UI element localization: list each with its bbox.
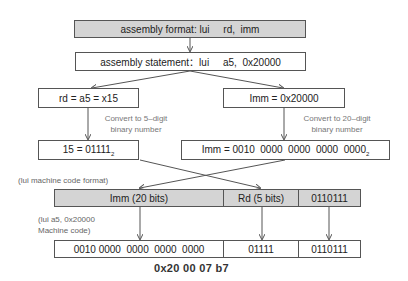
assembly-format-text: assembly format: lui rd, imm [121, 24, 260, 35]
assembly-format-box: assembly format: lui rd, imm [74, 20, 306, 38]
assembly-statement-text: assembly statement：lui a5, 0x20000 [100, 54, 281, 69]
hex-result: 0x20 00 07 b7 [154, 262, 229, 274]
assembly-statement-box: assembly statement：lui a5, 0x20000 [75, 52, 306, 71]
machine-code-label: (lui a5, 0x20000 Machine code) [38, 214, 95, 236]
rd-box: rd = a5 = x15 [38, 88, 139, 108]
format-field-opcode: 0110111 [299, 190, 360, 206]
imm-binary-text: Imm = 0010 0000 0000 0000 00002 [202, 144, 370, 157]
machine-code-format-bar: Imm (20 bits) Rd (5 bits) 0110111 [54, 189, 361, 207]
rd-binary-box: 15 = 011112 [38, 140, 139, 160]
machine-field-rd: 01111 [224, 241, 299, 257]
format-field-imm: Imm (20 bits) [55, 190, 224, 206]
machine-code-bar: 0010 0000 0000 0000 0000 01111 0110111 [54, 240, 361, 258]
format-label: (lui machine code format) [18, 175, 108, 186]
imm-text: Imm = 0x20000 [249, 93, 318, 104]
machine-field-imm: 0010 0000 0000 0000 0000 [55, 241, 224, 257]
rd-binary-text: 15 = 011112 [63, 144, 114, 157]
imm-binary-box: Imm = 0010 0000 0000 0000 00002 [181, 140, 390, 160]
convert-5-note: Convert to 5–digit binary number [96, 113, 176, 135]
rd-text: rd = a5 = x15 [59, 93, 118, 104]
format-field-rd: Rd (5 bits) [224, 190, 299, 206]
machine-field-opcode: 0110111 [299, 241, 360, 257]
convert-20-note: Convert to 20–digit binary number [292, 113, 382, 135]
imm-box: Imm = 0x20000 [223, 88, 345, 108]
